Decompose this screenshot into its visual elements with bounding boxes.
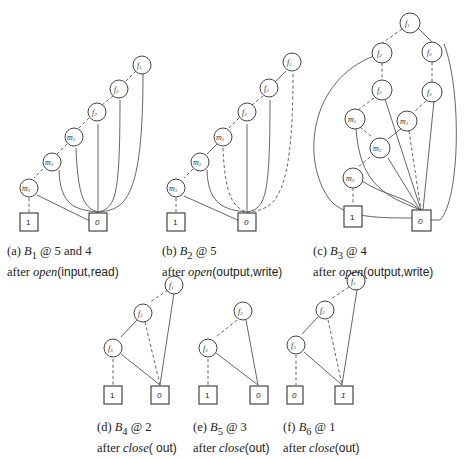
svg-text:0: 0 (418, 217, 423, 226)
bdd-figure: f1 f2 f3 m1 m2 m3 1 0 f1 f2 f3 m1 m2 m3 … (0, 0, 464, 459)
node-f2-left: f2 (372, 43, 392, 63)
node-f2: f2 (110, 80, 128, 98)
node-m3: m3 (167, 179, 185, 197)
terminal-0: 0 (250, 386, 268, 404)
node-m1-right: m1 (397, 111, 417, 131)
node-f2: f2 (234, 302, 252, 320)
node-f1: f1 (283, 53, 301, 71)
caption-c: (c) B3 @ 4 after open(output,write) (313, 243, 433, 280)
svg-text:0: 0 (157, 391, 162, 400)
node-f3: f3 (104, 339, 122, 357)
node-f1: f1 (400, 13, 420, 33)
terminal-1: 1 (104, 386, 122, 404)
panel-d-graph: f1 f2 f3 1 0 (104, 276, 183, 404)
svg-text:0: 0 (292, 391, 297, 400)
terminal-0: 0 (412, 210, 431, 231)
panel-e-graph: f2 f3 1 0 (199, 302, 268, 404)
caption-a: (a) B1 @ 5 and 4 after open(input,read) (7, 243, 119, 280)
node-m1: m1 (214, 128, 232, 146)
node-f2: f2 (260, 79, 278, 97)
node-m2: m2 (370, 138, 390, 158)
node-f3: f3 (287, 336, 305, 354)
svg-text:1: 1 (173, 218, 178, 227)
node-f2-right: f2 (422, 42, 442, 62)
terminal-1: 1 (199, 386, 217, 404)
svg-text:1: 1 (205, 391, 210, 400)
node-m2: m2 (43, 153, 61, 171)
node-f3: f3 (238, 103, 256, 121)
panel-f-graph: f1 f2 f3 0 1 (287, 272, 365, 404)
node-m2: m2 (191, 153, 209, 171)
caption-f: (f) B6 @ 1 after close(out) (283, 419, 359, 456)
panel-a-graph: f1 f2 f3 m1 m2 m3 1 0 (20, 56, 151, 231)
terminal-0: 0 (287, 386, 303, 404)
terminal-1: 1 (335, 386, 353, 404)
svg-text:0: 0 (95, 218, 100, 227)
node-m1: m1 (65, 128, 83, 146)
panel-b-graph: f1 f2 f3 m1 m2 m3 1 0 (167, 53, 301, 231)
node-m1-left: m1 (345, 109, 365, 129)
svg-text:0: 0 (244, 218, 249, 227)
terminal-1: 1 (167, 213, 185, 231)
node-f3-left: f3 (372, 80, 392, 100)
node-f3-right: f3 (422, 82, 442, 102)
caption-d: (d) B4 @ 2 after close( out) (97, 419, 177, 456)
caption-b: (b) B2 @ 5 after open(output,write) (162, 243, 282, 280)
panel-c-graph: f1 f2 f2 f3 f3 m1 m1 m2 m3 1 0 (314, 13, 457, 231)
svg-text:1: 1 (341, 391, 345, 400)
node-m3: m3 (343, 168, 363, 188)
node-f1: f1 (133, 56, 151, 74)
node-f3: f3 (88, 103, 106, 121)
terminal-1: 1 (344, 206, 362, 227)
terminal-0: 0 (89, 213, 107, 231)
caption-e: (e) B5 @ 3 after close(out) (193, 419, 269, 456)
svg-text:1: 1 (350, 213, 355, 222)
node-f2: f2 (134, 304, 152, 322)
terminal-0: 0 (238, 213, 256, 231)
terminal-1: 1 (20, 213, 38, 231)
node-f2: f2 (316, 301, 334, 319)
svg-text:0: 0 (256, 391, 261, 400)
node-m3: m3 (20, 179, 38, 197)
node-f3: f3 (199, 339, 217, 357)
svg-text:1: 1 (110, 391, 115, 400)
svg-text:1: 1 (26, 218, 31, 227)
terminal-0: 0 (151, 386, 169, 404)
